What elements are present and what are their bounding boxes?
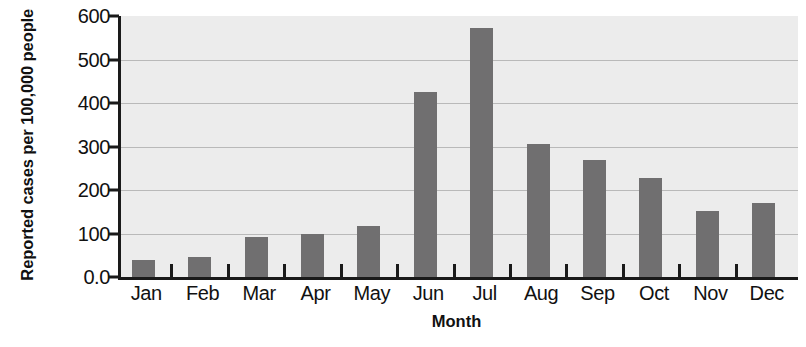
y-axis-tick-label: 600 [54,5,110,28]
bar [301,234,324,277]
bar [414,92,437,277]
bar [583,160,606,277]
y-axis-tick-labels: 0.0100200300400500600 [48,0,110,347]
gridline [121,60,798,61]
x-axis-tick-mark [453,264,456,277]
bar [245,237,268,277]
x-axis-tick-label: Jun [413,282,444,305]
x-axis-tick-mark [396,264,399,277]
x-axis-tick-mark [283,264,286,277]
bar [752,203,775,277]
y-axis-tick-label: 0.0 [54,266,110,289]
x-axis-tick-label: Aug [524,282,558,305]
x-axis-tick-label: Dec [750,282,784,305]
x-axis-tick-label: Jan [131,282,162,305]
y-axis-tick-label: 100 [54,222,110,245]
bar [132,260,155,277]
bar [188,257,211,277]
x-axis-tick-label: Apr [300,282,330,305]
x-axis-tick-mark [565,264,568,277]
x-axis-tick-mark [340,264,343,277]
plot-area [118,16,798,280]
x-axis-tick-label: Sep [580,282,614,305]
x-axis-tick-mark [622,264,625,277]
x-axis-tick-label: Mar [242,282,275,305]
bar [527,144,550,277]
bar-chart-figure: Reported cases per 100,000 people 0.0100… [0,0,806,347]
x-axis-tick-mark [170,264,173,277]
y-axis-tick-label: 500 [54,48,110,71]
gridline [121,103,798,104]
x-axis-tick-mark [509,264,512,277]
gridline [121,190,798,191]
bar [696,211,719,277]
y-axis-title: Reported cases per 100,000 people [18,9,37,281]
x-axis-title: Month [118,312,795,331]
x-axis-tick-label: Nov [693,282,727,305]
x-axis-tick-label: Oct [639,282,669,305]
x-axis-tick-mark [678,264,681,277]
x-axis-tick-label: May [354,282,391,305]
bar [357,226,380,277]
y-axis-tick-label: 300 [54,135,110,158]
y-axis-tick-label: 200 [54,179,110,202]
y-axis-tick-label: 400 [54,92,110,115]
bar [639,178,662,277]
x-axis-tick-mark [735,264,738,277]
x-axis-tick-label: Jul [473,282,497,305]
bar [470,28,493,277]
gridline [121,147,798,148]
x-axis-tick-mark [227,264,230,277]
x-axis-tick-labels: JanFebMarAprMayJunJulAugSepOctNovDec [118,282,795,310]
x-axis-tick-label: Feb [186,282,219,305]
